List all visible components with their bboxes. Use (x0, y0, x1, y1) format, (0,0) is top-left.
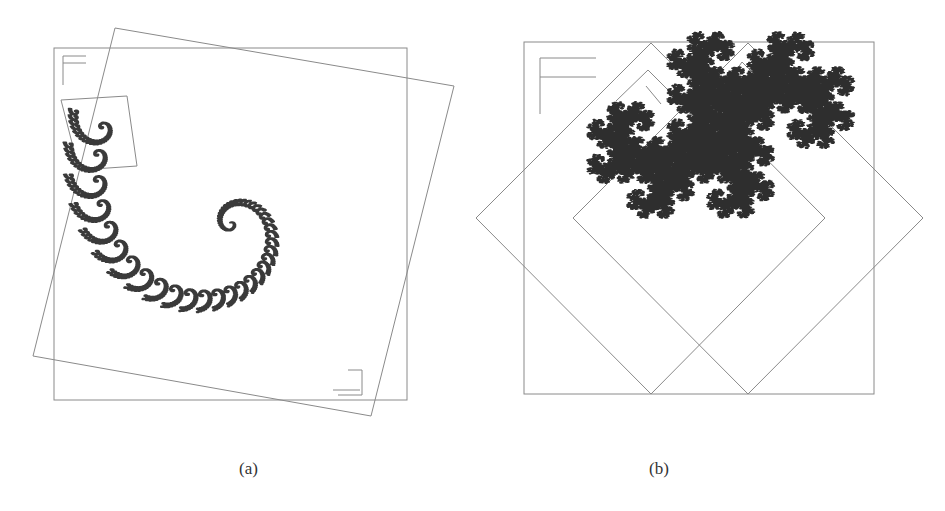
figure-canvas (0, 0, 945, 511)
f-marker-icon (63, 56, 86, 85)
spiral-fractal (63, 109, 279, 313)
twin-dragon-fractal (587, 32, 855, 218)
panel-b (476, 32, 923, 394)
caption-b: (b) (649, 459, 669, 479)
panel-a (33, 28, 454, 416)
caption-a: (a) (239, 459, 258, 479)
f-marker-rotated-icon (333, 370, 362, 395)
small-map-frame-a (61, 96, 137, 170)
f-marker-icon (540, 58, 596, 114)
